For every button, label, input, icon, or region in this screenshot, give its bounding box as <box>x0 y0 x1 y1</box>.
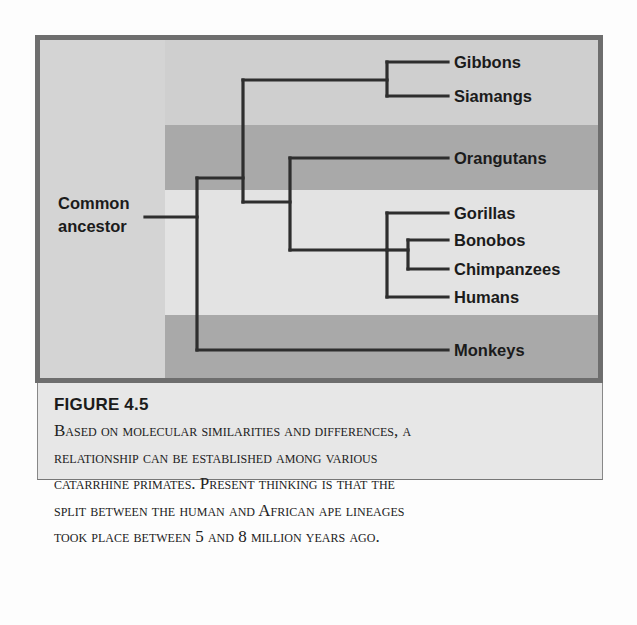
common-ancestor-label-line1: Common <box>58 194 130 212</box>
figure-caption: FIGURE 4.5 Based on molecular similariti… <box>37 383 603 480</box>
caption-line-1: Based on molecular similarities and diff… <box>54 418 584 445</box>
caption-line-2: relationship can be established among va… <box>54 445 584 472</box>
leaf-humans: Humans <box>454 289 519 306</box>
phylogeny-figure-panel: Common ancestor Gibbons Siamangs Orangut… <box>35 35 603 383</box>
caption-text: Based on molecular similarities and diff… <box>54 418 584 551</box>
leaf-gibbons: Gibbons <box>454 54 521 71</box>
caption-line-3: catarrhine primates. Present thinking is… <box>54 471 584 498</box>
leaf-monkeys: Monkeys <box>454 342 525 359</box>
leaf-chimpanzees: Chimpanzees <box>454 261 560 278</box>
caption-line-4: split between the human and African ape … <box>54 498 584 525</box>
leaf-siamangs: Siamangs <box>454 88 532 105</box>
leaf-bonobos: Bonobos <box>454 232 526 249</box>
common-ancestor-label: Common ancestor <box>58 192 130 238</box>
leaf-gorillas: Gorillas <box>454 205 515 222</box>
caption-line-5: took place between 5 and 8 million years… <box>54 524 584 551</box>
figure-number: FIGURE 4.5 <box>54 395 602 415</box>
common-ancestor-label-line2: ancestor <box>58 217 127 235</box>
leaf-orangutans: Orangutans <box>454 150 547 167</box>
